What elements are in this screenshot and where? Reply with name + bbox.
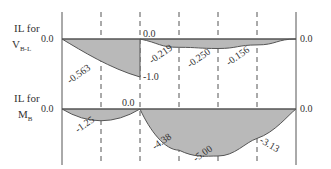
vbl-start-value: 0.0 — [41, 33, 54, 44]
vbl-end-value: 0.0 — [300, 33, 313, 44]
mb-shaded-area-span1 — [62, 109, 140, 121]
mb-label-line1: IL for — [14, 92, 40, 104]
vbl-point-label-1: -0.563 — [65, 62, 92, 86]
vbl-mid-value: 0.0 — [143, 28, 156, 39]
mb-end-value: 0.0 — [300, 103, 313, 114]
vbl-point-label-3: -0.250 — [185, 46, 212, 70]
mb-start-value: 0.0 — [41, 103, 54, 114]
mb-mid-value: 0.0 — [122, 97, 135, 108]
diagram-canvas: IL for VB-L 0.0 0.0 0.0 -1.0 -0.563 -0.2… — [0, 0, 331, 169]
mb-label-main: MB — [18, 108, 33, 123]
influence-line-diagram: IL for VB-L 0.0 0.0 0.0 -1.0 -0.563 -0.2… — [0, 0, 331, 169]
vbl-jump-value: -1.0 — [143, 71, 159, 82]
vbl-label-main: VB-L — [12, 38, 31, 53]
vbl-label-line1: IL for — [14, 22, 40, 34]
mb-point-label-4: -3.13 — [258, 134, 282, 154]
